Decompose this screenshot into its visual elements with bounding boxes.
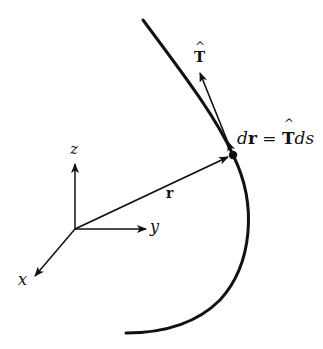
position-vector-label: r	[166, 186, 173, 200]
equation-dr: dr = ^Tds	[237, 130, 314, 147]
eq-d: d	[237, 128, 248, 148]
eq-hat-symbol: ^	[284, 118, 294, 130]
z-axis-label: z	[70, 142, 78, 157]
y-axis-label: y	[150, 219, 159, 235]
x-axis	[35, 229, 75, 276]
diagram-svg	[0, 0, 323, 349]
hat-symbol: ^	[195, 41, 205, 53]
x-axis-label: x	[18, 272, 27, 288]
diagram-canvas: z y x r ^ T dr = ^Tds	[0, 0, 323, 349]
eq-t: T	[282, 128, 295, 148]
point-on-curve	[229, 151, 237, 159]
tangent-vector-t	[200, 73, 231, 150]
eq-ds: ds	[295, 128, 315, 148]
tangent-label: ^ T	[194, 50, 205, 65]
eq-t-hat: ^T	[282, 128, 295, 148]
eq-r: r	[248, 128, 257, 148]
eq-equals: =	[257, 128, 282, 148]
